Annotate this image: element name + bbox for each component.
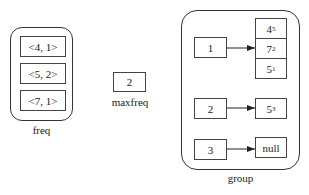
arrows bbox=[0, 0, 309, 195]
